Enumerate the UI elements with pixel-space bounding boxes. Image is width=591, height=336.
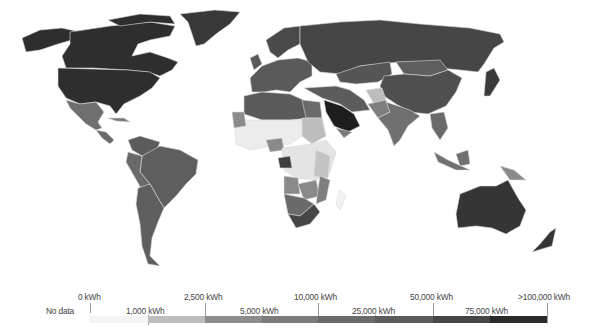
region-png[interactable]	[500, 166, 526, 180]
legend-tick-100000	[547, 303, 548, 323]
legend-label-0: 0 kWh	[78, 291, 101, 302]
region-cuba[interactable]	[108, 118, 130, 122]
legend-swatch-50000-75000	[433, 316, 490, 323]
region-central-america[interactable]	[96, 130, 114, 144]
region-australia[interactable]	[456, 180, 526, 234]
world-map	[0, 0, 591, 285]
legend-tick-0	[90, 303, 91, 313]
region-north-africa[interactable]	[244, 92, 310, 120]
region-mozambique[interactable]	[316, 176, 330, 204]
legend-label-100000: >100,000 kWh	[518, 291, 570, 302]
region-madagascar[interactable]	[336, 190, 346, 210]
legend-swatch-75000-100000	[490, 316, 547, 323]
legend: No data 0 kWh 1,000 kWh 2,500 kWh 5,000 …	[0, 285, 591, 336]
region-nigeria[interactable]	[266, 138, 284, 152]
region-scandinavia[interactable]	[266, 26, 300, 58]
legend-label-75000: 75,000 kWh	[465, 305, 508, 316]
region-new-zealand[interactable]	[532, 228, 556, 252]
legend-label-2500: 2,500 kWh	[184, 291, 222, 302]
legend-label-1000: 1,000 kWh	[126, 305, 164, 316]
region-angola[interactable]	[284, 176, 300, 194]
legend-swatch-2500-5000	[205, 316, 262, 323]
region-se-asia[interactable]	[430, 112, 448, 140]
legend-no-data-label: No data	[46, 305, 74, 316]
legend-label-5000: 5,000 kWh	[240, 305, 278, 316]
region-greenland[interactable]	[180, 10, 240, 46]
legend-label-50000: 50,000 kWh	[410, 291, 453, 302]
region-canada[interactable]	[62, 22, 178, 76]
region-indonesia[interactable]	[434, 150, 470, 170]
legend-label-25000: 25,000 kWh	[352, 305, 395, 316]
region-mauritania[interactable]	[232, 112, 246, 128]
legend-swatch-5000-10000	[262, 316, 318, 323]
region-sudan[interactable]	[302, 118, 326, 144]
legend-swatch-0-1000	[90, 316, 148, 323]
region-mexico[interactable]	[66, 100, 104, 130]
legend-label-10000: 10,000 kWh	[294, 291, 337, 302]
legend-swatch-25000-50000	[375, 316, 433, 323]
region-gabon[interactable]	[278, 156, 292, 168]
region-japan[interactable]	[484, 68, 500, 96]
legend-swatch-1000-2500	[148, 316, 205, 323]
legend-swatch-10000-25000	[318, 316, 375, 323]
